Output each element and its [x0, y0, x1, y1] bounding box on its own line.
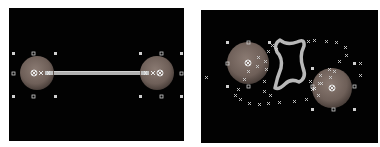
left-viewport-panel[interactable] — [9, 8, 184, 141]
right-scene-canvas[interactable] — [201, 10, 378, 143]
right-viewport-panel[interactable] — [201, 10, 378, 143]
star-outline-path[interactable] — [275, 40, 304, 89]
left-scene-canvas[interactable] — [9, 8, 184, 141]
